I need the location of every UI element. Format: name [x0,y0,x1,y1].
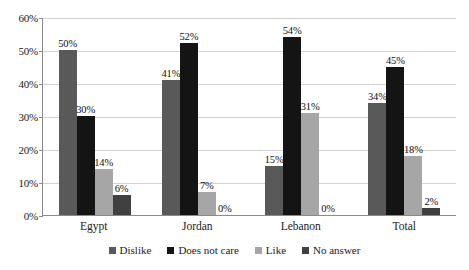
bar-slot: 2% [422,18,440,215]
bar-value-label: 0% [321,203,335,214]
bar-chart: 0%10%20%30%40%50%60% 50%30%14%6%41%52%7%… [0,0,469,270]
legend-item[interactable]: Does not care [167,244,238,256]
bar-slot: 30% [77,18,95,215]
bar-value-label: 45% [386,55,405,66]
bar-slot: 15% [265,18,283,215]
bar-value-label: 15% [265,154,284,165]
bar-slot: 18% [404,18,422,215]
bar-group-bars: 15%54%31%0% [250,18,353,215]
bar[interactable] [422,208,440,215]
bar-group-bars: 41%52%7%0% [146,18,249,215]
bar[interactable] [283,37,301,215]
legend-item[interactable]: Dislike [109,244,152,256]
bar[interactable] [180,43,198,215]
bar-slot: 50% [59,18,77,215]
bar[interactable] [59,50,77,215]
bar[interactable] [301,113,319,215]
bar[interactable] [198,192,216,215]
bar-slot: 7% [198,18,216,215]
bar-slot: 6% [113,18,131,215]
bar-value-label: 34% [368,91,387,102]
legend-item[interactable]: Like [255,244,286,256]
bar-slot: 54% [283,18,301,215]
bar-value-label: 14% [94,157,113,168]
bar-value-label: 2% [425,196,439,207]
bar-value-label: 30% [76,104,95,115]
bar-slot: 0% [319,18,337,215]
legend-label: Does not care [178,244,238,256]
x-axis-category-label: Total [353,220,457,232]
bar[interactable] [368,103,386,215]
legend-swatch-icon [255,247,262,254]
legend-label: Like [266,244,286,256]
bar-value-label: 7% [200,180,214,191]
x-axis-labels: EgyptJordanLebanonTotal [42,220,456,232]
bar-slot: 31% [301,18,319,215]
bar-group: 34%45%18%2% [353,18,456,215]
bar[interactable] [113,195,131,215]
bar[interactable] [404,156,422,215]
legend-label: No answer [313,244,360,256]
bar-slot: 0% [216,18,234,215]
chart-legend: DislikeDoes not careLikeNo answer [0,244,469,256]
bar-slot: 45% [386,18,404,215]
bar-slot: 52% [180,18,198,215]
bar-slot: 14% [95,18,113,215]
bar-slot: 34% [368,18,386,215]
bar-group-bars: 50%30%14%6% [43,18,146,215]
plot-area: 0%10%20%30%40%50%60% 50%30%14%6%41%52%7%… [42,18,456,216]
legend-swatch-icon [167,247,174,254]
bar-value-label: 54% [283,25,302,36]
bar-value-label: 50% [58,38,77,49]
bar-group: 15%54%31%0% [250,18,353,215]
bar-groups: 50%30%14%6%41%52%7%0%15%54%31%0%34%45%18… [43,18,456,215]
bar-value-label: 31% [301,101,320,112]
y-axis-tick-mark [39,216,43,217]
bar-value-label: 0% [218,203,232,214]
bar[interactable] [265,166,283,216]
bar-group-bars: 34%45%18%2% [353,18,456,215]
bar-value-label: 41% [162,68,181,79]
bar-group: 50%30%14%6% [43,18,146,215]
legend-swatch-icon [109,247,116,254]
legend-swatch-icon [302,247,309,254]
legend-label: Dislike [120,244,152,256]
bar-value-label: 6% [115,183,129,194]
bar-value-label: 18% [404,144,423,155]
x-axis-category-label: Jordan [146,220,250,232]
bar-group: 41%52%7%0% [146,18,249,215]
bar-value-label: 52% [180,31,199,42]
bar[interactable] [162,80,180,215]
x-axis-category-label: Egypt [42,220,146,232]
legend-item[interactable]: No answer [302,244,360,256]
bar[interactable] [386,67,404,216]
bar-slot: 41% [162,18,180,215]
x-axis-category-label: Lebanon [249,220,353,232]
bar[interactable] [95,169,113,215]
bar[interactable] [77,116,95,215]
